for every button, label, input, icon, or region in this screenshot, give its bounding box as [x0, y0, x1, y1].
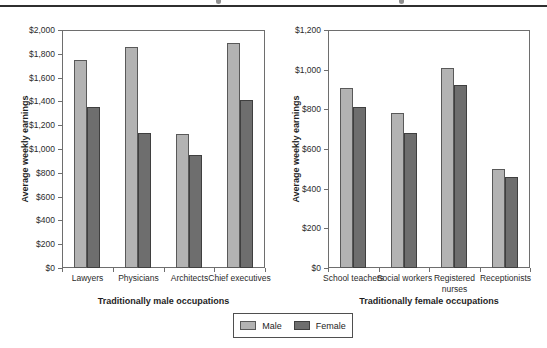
bar-female-1 — [138, 133, 151, 268]
y-tick-label: $200 — [11, 239, 55, 250]
x-tick-mark — [113, 268, 114, 272]
bar-female-3 — [505, 177, 518, 268]
y-tick-mark — [58, 30, 62, 31]
bar-male-0 — [340, 88, 353, 268]
legend-label-female: Female — [316, 321, 346, 331]
bar-male-0 — [74, 60, 87, 268]
cropped-text-fragment — [216, 0, 221, 4]
bar-male-2 — [176, 134, 189, 268]
bar-male-1 — [125, 47, 138, 268]
y-tick-label: $800 — [11, 168, 55, 179]
male-color-swatch — [240, 321, 256, 330]
x-tick-mark — [379, 268, 380, 272]
x-tick-mark — [62, 268, 63, 272]
category-label: Receptionists — [474, 273, 537, 284]
y-tick-label: $600 — [277, 144, 321, 155]
x-tick-mark — [328, 268, 329, 272]
legend-label-male: Male — [262, 321, 282, 331]
y-tick-mark — [58, 54, 62, 55]
y-tick-label: $1,200 — [277, 25, 321, 36]
y-tick-mark — [58, 78, 62, 79]
y-tick-label: $1,400 — [11, 96, 55, 107]
category-label: Chief executives — [208, 273, 271, 284]
x-tick-mark — [480, 268, 481, 272]
bar-female-0 — [353, 107, 366, 268]
bar-female-2 — [189, 155, 202, 268]
bar-female-1 — [404, 133, 417, 268]
y-tick-label: $1,800 — [11, 49, 55, 60]
bar-male-2 — [441, 68, 454, 268]
bar-male-3 — [227, 43, 240, 268]
y-tick-mark — [324, 70, 328, 71]
bar-male-3 — [492, 169, 505, 268]
y-tick-label: $1,000 — [277, 65, 321, 76]
legend-item-female: Female — [294, 321, 346, 331]
y-tick-mark — [58, 244, 62, 245]
x-tick-mark — [429, 268, 430, 272]
y-tick-label: $1,000 — [11, 144, 55, 155]
x-axis-title: Traditionally male occupations — [62, 296, 265, 306]
legend: Male Female — [233, 313, 353, 338]
legend-item-male: Male — [240, 321, 282, 331]
y-tick-mark — [58, 220, 62, 221]
y-tick-label: $400 — [11, 215, 55, 226]
y-tick-mark — [58, 125, 62, 126]
figure-gender-earnings-charts: Average weekly earnings Traditionally ma… — [0, 0, 547, 348]
y-tick-mark — [324, 228, 328, 229]
x-tick-mark — [530, 268, 531, 272]
y-tick-label: $600 — [11, 192, 55, 203]
y-tick-mark — [324, 30, 328, 31]
y-tick-label: $400 — [277, 184, 321, 195]
x-tick-mark — [164, 268, 165, 272]
bar-female-0 — [87, 107, 100, 268]
x-axis-title: Traditionally female occupations — [328, 296, 530, 306]
x-tick-mark — [265, 268, 266, 272]
x-tick-mark — [214, 268, 215, 272]
y-tick-mark — [58, 173, 62, 174]
page-header-rule — [0, 5, 547, 7]
y-tick-label: $0 — [11, 263, 55, 274]
y-tick-mark — [324, 189, 328, 190]
y-tick-mark — [324, 149, 328, 150]
y-tick-mark — [58, 197, 62, 198]
y-tick-mark — [58, 149, 62, 150]
cropped-text-fragment — [399, 0, 404, 4]
bar-female-2 — [454, 85, 467, 268]
y-tick-label: $2,000 — [11, 25, 55, 36]
female-color-swatch — [294, 321, 310, 330]
y-tick-label: $0 — [277, 263, 321, 274]
bar-female-3 — [240, 100, 253, 268]
y-tick-mark — [324, 109, 328, 110]
y-tick-label: $1,600 — [11, 73, 55, 84]
bar-male-1 — [391, 113, 404, 268]
y-tick-label: $200 — [277, 223, 321, 234]
y-tick-mark — [58, 101, 62, 102]
y-tick-label: $1,200 — [11, 120, 55, 131]
y-tick-label: $800 — [277, 104, 321, 115]
